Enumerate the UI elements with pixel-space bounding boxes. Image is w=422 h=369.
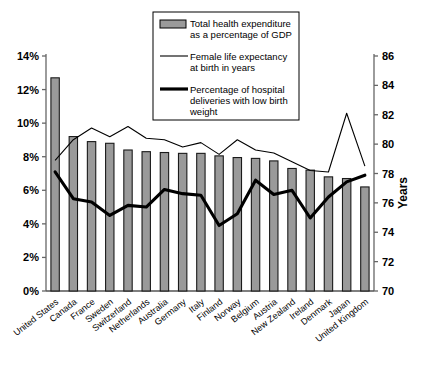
legend-swatch-bar: [160, 20, 186, 28]
right-axis-tick-label: 78: [382, 168, 394, 180]
bar-netherlands: [142, 152, 150, 291]
left-axis-tick-label: 12%: [17, 84, 39, 96]
bar-ireland: [306, 170, 314, 291]
right-axis-tick-label: 86: [382, 50, 394, 62]
bar-japan: [342, 179, 350, 291]
right-axis-tick-label: 74: [382, 226, 395, 238]
left-axis-tick-label: 0%: [23, 285, 39, 297]
bar-canada: [69, 137, 77, 291]
left-axis-tick-label: 6%: [23, 184, 39, 196]
bar-belgium: [251, 158, 259, 291]
bar-italy: [197, 153, 205, 291]
bar-united-states: [51, 78, 59, 291]
right-axis-tick-label: 84: [382, 79, 395, 91]
legend-label-low-birth-weight-line1: Percentage of hospital: [190, 84, 285, 95]
bar-new-zealand: [288, 168, 296, 291]
left-axis-tick-label: 8%: [23, 151, 39, 163]
left-axis-tick-label: 2%: [23, 251, 39, 263]
bar-france: [87, 142, 95, 291]
bar-norway: [233, 158, 241, 291]
right-axis-tick-label: 76: [382, 197, 394, 209]
bar-germany: [178, 153, 186, 291]
bar-austria: [270, 161, 278, 291]
right-axis-tick-label: 82: [382, 109, 394, 121]
right-axis-tick-label: 80: [382, 138, 394, 150]
legend-label-low-birth-weight-line3: weight: [189, 106, 218, 117]
y2-axis-title: Years: [396, 177, 410, 209]
legend-label-low-birth-weight-line2: deliveries with low birth: [190, 95, 288, 106]
bar-switzerland: [124, 150, 132, 291]
legend-label-expenditure-line2: as a percentage of GDP: [190, 29, 292, 40]
health-expenditure-chart: 0%2%4%6%8%10%12%14%707274767880828486Yea…: [0, 0, 422, 369]
left-axis-tick-label: 14%: [17, 50, 39, 62]
bar-australia: [160, 153, 168, 291]
right-axis-tick-label: 72: [382, 256, 394, 268]
bar-sweden: [106, 143, 114, 291]
right-axis-tick-label: 70: [382, 285, 394, 297]
legend-label-life-expectancy-line1: Female life expectancy: [190, 51, 287, 62]
left-axis-tick-label: 4%: [23, 218, 39, 230]
legend-label-life-expectancy-line2: at birth in years: [190, 62, 255, 73]
bar-united-kingdom: [361, 187, 369, 291]
chart-container: 0%2%4%6%8%10%12%14%707274767880828486Yea…: [0, 0, 422, 369]
left-axis-tick-label: 10%: [17, 117, 39, 129]
legend-label-expenditure-line1: Total health expenditure: [190, 18, 291, 29]
